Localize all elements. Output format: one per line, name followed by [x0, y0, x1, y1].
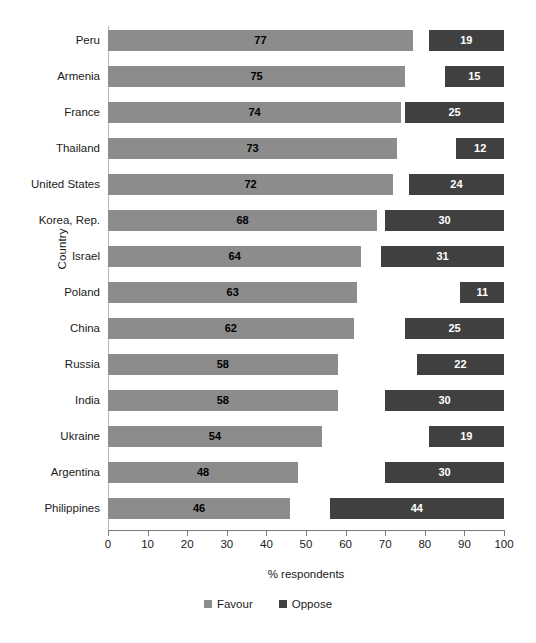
bar-favour: 46 — [108, 498, 290, 519]
bar-value-label: 72 — [108, 174, 393, 195]
bar-favour: 64 — [108, 246, 361, 267]
bar-row: Israel6431 — [108, 246, 504, 282]
bar-value-label: 25 — [405, 318, 504, 339]
chart-legend: FavourOppose — [0, 598, 536, 610]
x-tick-label: 80 — [405, 538, 445, 550]
bar-value-label: 19 — [429, 30, 504, 51]
bar-favour: 68 — [108, 210, 377, 231]
legend-item: Oppose — [279, 598, 332, 610]
bar-value-label: 73 — [108, 138, 397, 159]
bar-row: Peru7719 — [108, 30, 504, 66]
bar-value-label: 12 — [456, 138, 504, 159]
x-axis-title: % respondents — [108, 568, 504, 580]
legend-swatch-icon — [204, 600, 212, 608]
bar-value-label: 62 — [108, 318, 354, 339]
x-tick-label: 60 — [326, 538, 366, 550]
bar-favour: 58 — [108, 354, 338, 375]
category-label: Peru — [2, 30, 100, 51]
category-label: Israel — [2, 246, 100, 267]
category-label: Armenia — [2, 66, 100, 87]
bar-oppose: 19 — [429, 30, 504, 51]
bar-favour: 63 — [108, 282, 357, 303]
bar-favour: 77 — [108, 30, 413, 51]
bar-value-label: 77 — [108, 30, 413, 51]
bar-favour: 48 — [108, 462, 298, 483]
bar-oppose: 30 — [385, 390, 504, 411]
bar-oppose: 19 — [429, 426, 504, 447]
bar-row: United States7224 — [108, 174, 504, 210]
category-label: Argentina — [2, 462, 100, 483]
bar-value-label: 30 — [385, 462, 504, 483]
x-tick-label: 40 — [246, 538, 286, 550]
bar-value-label: 63 — [108, 282, 357, 303]
x-tick-label: 10 — [128, 538, 168, 550]
bar-value-label: 19 — [429, 426, 504, 447]
bar-value-label: 30 — [385, 210, 504, 231]
bar-oppose: 15 — [445, 66, 504, 87]
x-tick-label: 100 — [484, 538, 524, 550]
x-tick — [504, 531, 505, 536]
category-label: Korea, Rep. — [2, 210, 100, 231]
bar-oppose: 11 — [460, 282, 504, 303]
bar-row: Ukraine5419 — [108, 426, 504, 462]
category-label: France — [2, 102, 100, 123]
bar-oppose: 30 — [385, 210, 504, 231]
bar-favour: 72 — [108, 174, 393, 195]
bar-value-label: 15 — [445, 66, 504, 87]
bar-row: China6225 — [108, 318, 504, 354]
x-tick-label: 70 — [365, 538, 405, 550]
x-tick-label: 0 — [88, 538, 128, 550]
bar-favour: 75 — [108, 66, 405, 87]
bar-value-label: 74 — [108, 102, 401, 123]
x-tick-label: 50 — [286, 538, 326, 550]
bar-value-label: 75 — [108, 66, 405, 87]
legend-item: Favour — [204, 598, 253, 610]
bar-oppose: 22 — [417, 354, 504, 375]
bar-value-label: 11 — [460, 282, 504, 303]
x-tick-label: 90 — [444, 538, 484, 550]
category-label: United States — [2, 174, 100, 195]
category-label: Thailand — [2, 138, 100, 159]
bar-value-label: 54 — [108, 426, 322, 447]
plot-area: 0102030405060708090100 Peru7719Armenia75… — [108, 26, 504, 530]
bar-row: Philippines4644 — [108, 498, 504, 534]
bar-value-label: 22 — [417, 354, 504, 375]
bar-oppose: 24 — [409, 174, 504, 195]
bar-value-label: 24 — [409, 174, 504, 195]
bar-favour: 62 — [108, 318, 354, 339]
category-label: Poland — [2, 282, 100, 303]
bar-value-label: 31 — [381, 246, 504, 267]
bar-row: Poland6311 — [108, 282, 504, 318]
bar-oppose: 12 — [456, 138, 504, 159]
bar-value-label: 58 — [108, 354, 338, 375]
bar-value-label: 48 — [108, 462, 298, 483]
bar-value-label: 58 — [108, 390, 338, 411]
category-label: Ukraine — [2, 426, 100, 447]
bar-value-label: 46 — [108, 498, 290, 519]
bar-favour: 73 — [108, 138, 397, 159]
x-tick-label: 30 — [207, 538, 247, 550]
legend-label: Oppose — [292, 598, 332, 610]
bar-value-label: 25 — [405, 102, 504, 123]
bar-row: Korea, Rep.6830 — [108, 210, 504, 246]
bar-value-label: 30 — [385, 390, 504, 411]
bar-oppose: 30 — [385, 462, 504, 483]
legend-swatch-icon — [279, 600, 287, 608]
legend-label: Favour — [217, 598, 253, 610]
bar-favour: 54 — [108, 426, 322, 447]
bar-row: Russia5822 — [108, 354, 504, 390]
bar-row: France7425 — [108, 102, 504, 138]
bar-oppose: 25 — [405, 102, 504, 123]
bar-row: India5830 — [108, 390, 504, 426]
bar-value-label: 68 — [108, 210, 377, 231]
bar-chart: Country 0102030405060708090100 Peru7719A… — [0, 0, 536, 643]
bar-oppose: 31 — [381, 246, 504, 267]
category-label: Russia — [2, 354, 100, 375]
bar-value-label: 44 — [330, 498, 504, 519]
bar-favour: 58 — [108, 390, 338, 411]
category-label: Philippines — [2, 498, 100, 519]
bar-row: Argentina4830 — [108, 462, 504, 498]
category-label: China — [2, 318, 100, 339]
bar-row: Armenia7515 — [108, 66, 504, 102]
bar-oppose: 44 — [330, 498, 504, 519]
